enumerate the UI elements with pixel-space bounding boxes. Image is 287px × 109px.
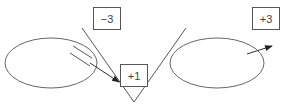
- label-box-minus3: −3: [93, 7, 121, 30]
- diagram-canvas: [0, 0, 287, 109]
- label-box-plus3: +3: [252, 7, 280, 30]
- label-plus3: +3: [260, 13, 273, 25]
- right-ellipse: [170, 38, 264, 88]
- label-minus3: −3: [101, 13, 114, 25]
- left-arrow: [90, 63, 119, 82]
- label-box-plus1: +1: [120, 64, 148, 87]
- left-motion-line-1: [73, 46, 92, 58]
- label-plus1: +1: [128, 70, 141, 82]
- left-ellipse: [5, 38, 97, 88]
